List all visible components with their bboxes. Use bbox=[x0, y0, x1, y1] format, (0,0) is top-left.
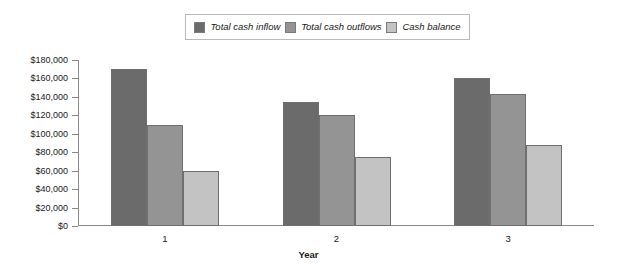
bar[interactable] bbox=[283, 102, 319, 227]
x-axis-tick-label: 2 bbox=[334, 233, 339, 244]
bar[interactable] bbox=[526, 145, 562, 226]
legend-item[interactable]: Total cash outflows bbox=[285, 22, 381, 33]
bar[interactable] bbox=[111, 69, 147, 226]
y-axis-tick-label: $80,000 bbox=[35, 147, 68, 157]
bar[interactable] bbox=[147, 125, 183, 226]
legend-item-label: Total cash outflows bbox=[301, 22, 381, 32]
y-axis-tick-label: $20,000 bbox=[35, 203, 68, 213]
bar[interactable] bbox=[355, 157, 391, 226]
y-axis-tick-label: $40,000 bbox=[35, 184, 68, 194]
legend-swatch-icon bbox=[285, 22, 296, 33]
bar[interactable] bbox=[454, 78, 490, 226]
legend-item[interactable]: Cash balance bbox=[386, 22, 460, 33]
legend-swatch-icon bbox=[194, 22, 205, 33]
x-axis-title: Year bbox=[0, 249, 617, 260]
y-axis-tick-label: $160,000 bbox=[30, 73, 68, 83]
y-axis-tick-label: $140,000 bbox=[30, 92, 68, 102]
legend-item-label: Cash balance bbox=[402, 22, 460, 32]
y-axis-tick-label: $180,000 bbox=[30, 55, 68, 65]
legend-swatch-icon bbox=[386, 22, 397, 33]
y-axis-tick bbox=[72, 134, 78, 135]
bar[interactable] bbox=[490, 94, 526, 226]
bar[interactable] bbox=[183, 171, 219, 226]
legend-item[interactable]: Total cash inflow bbox=[194, 22, 280, 33]
y-axis-tick bbox=[72, 60, 78, 61]
y-axis-tick bbox=[72, 208, 78, 209]
bars-layer bbox=[79, 60, 594, 226]
chart-legend: Total cash inflowTotal cash outflowsCash… bbox=[185, 14, 470, 40]
y-axis-tick bbox=[72, 171, 78, 172]
y-axis-tick bbox=[72, 115, 78, 116]
y-axis-tick-label: $100,000 bbox=[30, 129, 68, 139]
plot-area: $0$20,000$40,000$60,000$80,000$100,000$1… bbox=[78, 60, 594, 226]
y-axis-tick bbox=[72, 97, 78, 98]
y-axis-tick-label: $60,000 bbox=[35, 166, 68, 176]
y-axis-tick bbox=[72, 226, 78, 227]
x-axis-tick-label: 1 bbox=[162, 233, 167, 244]
bar[interactable] bbox=[319, 115, 355, 226]
x-axis-tick-label: 3 bbox=[506, 233, 511, 244]
y-axis-tick bbox=[72, 152, 78, 153]
y-axis-tick bbox=[72, 78, 78, 79]
y-axis-tick-label: $120,000 bbox=[30, 110, 68, 120]
bar-chart-figure: Total cash inflowTotal cash outflowsCash… bbox=[0, 0, 617, 265]
y-axis-tick bbox=[72, 189, 78, 190]
y-axis-tick-label: $0 bbox=[58, 221, 68, 231]
legend-item-label: Total cash inflow bbox=[210, 22, 280, 32]
